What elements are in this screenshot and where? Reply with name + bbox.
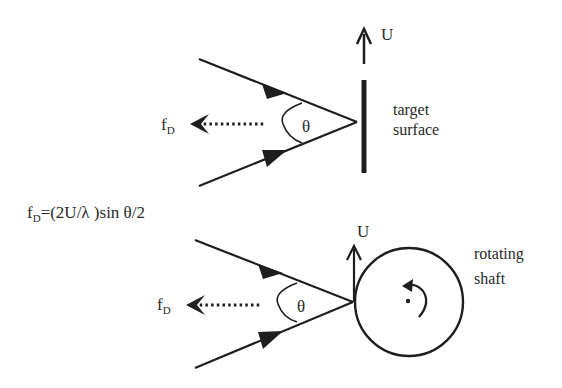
beam-direction-arrow-icon bbox=[258, 264, 283, 279]
doppler-arrow-icon bbox=[186, 295, 261, 315]
velocity-arrow-icon bbox=[357, 29, 371, 64]
doppler-label: fD bbox=[161, 115, 175, 136]
incident-beam-upper bbox=[195, 240, 353, 302]
incident-beam-lower bbox=[195, 302, 353, 368]
bottom-panel: θ U rotating shaft fD bbox=[157, 222, 524, 368]
doppler-arrow-icon bbox=[190, 114, 265, 134]
doppler-label: fD bbox=[157, 295, 171, 316]
lda-diagram: θ U target surface fD fD=(2U/λ )sin θ/2 bbox=[0, 0, 562, 388]
shaft-center-dot bbox=[406, 299, 410, 303]
shaft-label-line2: shaft bbox=[474, 270, 506, 287]
beam-direction-arrow-icon bbox=[262, 150, 287, 167]
rotation-arrow-icon bbox=[402, 279, 426, 317]
velocity-label: U bbox=[357, 222, 369, 241]
target-label-line1: target bbox=[393, 101, 430, 119]
beam-direction-arrow-icon bbox=[258, 331, 283, 349]
doppler-equation: fD=(2U/λ )sin θ/2 bbox=[27, 203, 145, 224]
angle-arc bbox=[282, 103, 302, 143]
incident-beam-lower bbox=[199, 122, 357, 186]
velocity-label: U bbox=[381, 25, 393, 44]
shaft-label-line1: rotating bbox=[474, 245, 524, 263]
incident-beam-upper bbox=[199, 59, 357, 122]
top-panel: θ U target surface fD bbox=[161, 25, 439, 186]
angle-label: θ bbox=[297, 297, 305, 316]
target-label-line2: surface bbox=[393, 121, 439, 138]
angle-label: θ bbox=[302, 117, 310, 136]
angle-arc bbox=[277, 283, 297, 322]
velocity-arrow-icon bbox=[347, 246, 361, 302]
